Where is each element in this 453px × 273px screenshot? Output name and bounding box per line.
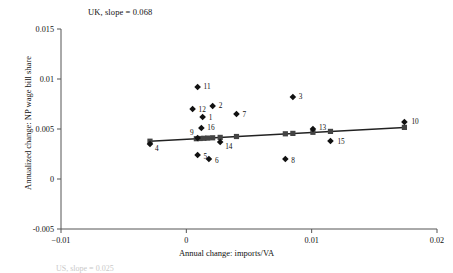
x-axis-label: Annual change: imports/VA — [0, 248, 453, 258]
y-tick-label: 0.005 — [36, 125, 54, 134]
data-point-label: 8 — [291, 156, 295, 165]
fitted-value-marker — [402, 125, 407, 130]
data-point — [282, 156, 289, 163]
data-point — [198, 125, 205, 132]
data-point-label: 14 — [225, 142, 233, 151]
data-point-label: 12 — [199, 105, 207, 114]
data-point-label: 2 — [219, 101, 223, 110]
fitted-value-marker — [283, 131, 288, 136]
chart-title: UK, slope = 0.068 — [88, 7, 152, 17]
scatter-plot-canvas: 0.0150.010.0050-0.005−0.0100.010.02 1234… — [0, 0, 453, 273]
data-point — [194, 152, 201, 159]
fitted-value-marker — [328, 129, 333, 134]
y-axis-label: Annualized change: NP wage bill share — [23, 33, 33, 213]
data-point-label: 6 — [215, 156, 219, 165]
fitted-value-marker — [205, 136, 210, 141]
fitted-value-marker — [210, 135, 215, 140]
data-point — [189, 106, 196, 113]
data-point — [194, 84, 201, 91]
data-point-label: 3 — [299, 92, 303, 101]
fitted-value-marker — [234, 134, 239, 139]
data-point — [401, 119, 408, 126]
x-tick-label: −0.01 — [52, 236, 71, 245]
data-point — [290, 94, 297, 101]
y-tick-label: 0.015 — [36, 25, 54, 34]
chart-figure: UK, slope = 0.068 Annualized change: NP … — [0, 0, 453, 273]
data-point-label: 7 — [242, 110, 246, 119]
data-point-label: 10 — [411, 117, 419, 126]
x-tick-label: 0 — [184, 236, 188, 245]
data-point — [327, 138, 334, 145]
axes-layer — [57, 29, 437, 233]
data-point-label: 16 — [207, 123, 215, 132]
data-point — [233, 111, 240, 118]
y-tick-label: -0.005 — [33, 225, 54, 234]
data-points-layer: 12345678910111213141516 — [147, 82, 419, 165]
data-point-label: 15 — [337, 137, 345, 146]
y-tick-label: 0 — [50, 175, 54, 184]
data-point-label: 13 — [319, 123, 327, 132]
regression-line — [150, 127, 404, 141]
y-tick-label: 0.01 — [40, 75, 54, 84]
data-point-label: 11 — [204, 82, 211, 91]
data-point-label: 9 — [190, 128, 194, 137]
data-point — [209, 103, 216, 110]
data-point — [199, 114, 206, 121]
x-tick-label: 0.01 — [305, 236, 319, 245]
x-tick-label: 0.02 — [430, 236, 444, 245]
chart-footnote: US, slope = 0.025 — [56, 264, 114, 273]
fitted-value-marker — [290, 131, 295, 136]
regression-line-layer — [150, 127, 404, 141]
data-point-label: 1 — [209, 113, 213, 122]
data-point-label: 4 — [155, 144, 159, 153]
